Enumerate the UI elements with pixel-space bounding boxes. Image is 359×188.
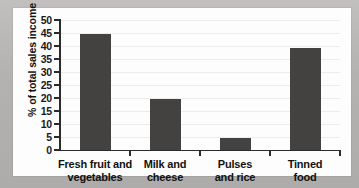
y-tick-label: 20 [22, 93, 52, 104]
y-tick-label: 50 [22, 15, 52, 26]
x-tick-label-line1: Tinned [288, 158, 323, 170]
bar [290, 48, 321, 150]
gridline [60, 20, 340, 21]
y-axis-line [59, 19, 61, 151]
y-tick-label: 5 [22, 132, 52, 143]
chart-panel: % of total sales income 0510152025303540… [13, 8, 351, 176]
bar [220, 138, 251, 150]
x-tick-label-line1: Pulses [218, 158, 252, 170]
x-tick-mark [129, 151, 130, 156]
y-tick-label: 15 [22, 106, 52, 117]
x-tick-mark [339, 151, 340, 156]
plot-area [60, 20, 340, 150]
x-tick-label: Tinnedfood [264, 158, 346, 183]
y-tick-label: 30 [22, 67, 52, 78]
x-tick-mark [199, 151, 200, 156]
y-tick-label: 40 [22, 41, 52, 52]
figure-frame: % of total sales income 0510152025303540… [0, 0, 359, 188]
bar [80, 34, 111, 150]
bar [150, 99, 181, 150]
x-tick-label-line2: food [264, 171, 346, 184]
y-tick-label: 35 [22, 54, 52, 65]
x-tick-label-line1: Fresh fruit and [58, 158, 132, 170]
y-tick-label: 10 [22, 119, 52, 130]
x-tick-mark [269, 151, 270, 156]
x-tick-label-line1: Milk and [144, 158, 186, 170]
y-tick-label: 25 [22, 80, 52, 91]
y-tick-label: 45 [22, 28, 52, 39]
y-tick-label: 0 [22, 145, 52, 156]
